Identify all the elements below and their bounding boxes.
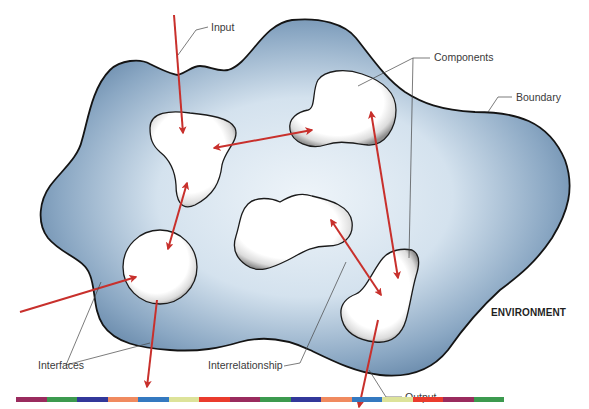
input-leader	[178, 27, 208, 55]
color-bar-segment	[108, 397, 139, 402]
color-bar-segment	[16, 397, 47, 402]
color-bar-segment	[413, 397, 444, 402]
label-interrelationship: Interrelationship	[208, 359, 283, 371]
color-bar-segment	[291, 397, 322, 402]
color-bar-segment	[352, 397, 383, 402]
label-interfaces: Interfaces	[38, 359, 84, 371]
color-bar-segment	[443, 397, 474, 402]
decorative-color-bar	[16, 397, 504, 402]
color-bar-segment	[260, 397, 291, 402]
color-bar-segment	[321, 397, 352, 402]
color-bar-segment	[230, 397, 261, 402]
color-bar-segment	[474, 397, 505, 402]
boundary-leader	[488, 97, 512, 112]
color-bar-segment	[382, 397, 413, 402]
color-bar-segment	[199, 397, 230, 402]
label-environment: ENVIRONMENT	[491, 307, 566, 318]
interfaces-leader-1	[66, 282, 101, 365]
label-boundary: Boundary	[516, 91, 562, 103]
color-bar-segment	[138, 397, 169, 402]
label-input: Input	[211, 21, 234, 33]
system-diagram: Input Components Boundary ENVIRONMENT In…	[0, 0, 589, 409]
color-bar-segment	[47, 397, 78, 402]
label-components: Components	[434, 51, 494, 63]
color-bar-segment	[77, 397, 108, 402]
component-circle	[123, 230, 197, 304]
color-bar-segment	[169, 397, 200, 402]
